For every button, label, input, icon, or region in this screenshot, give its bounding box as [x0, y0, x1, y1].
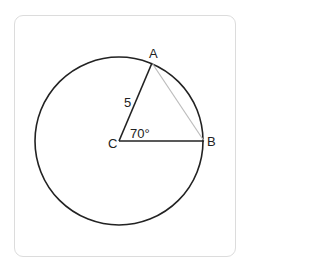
angle-label: 70° — [130, 127, 150, 140]
point-label-c: C — [108, 137, 117, 150]
chord-ab — [152, 63, 204, 141]
point-label-a: A — [149, 47, 158, 60]
point-label-b: B — [207, 135, 216, 148]
side-length-label: 5 — [124, 96, 131, 109]
